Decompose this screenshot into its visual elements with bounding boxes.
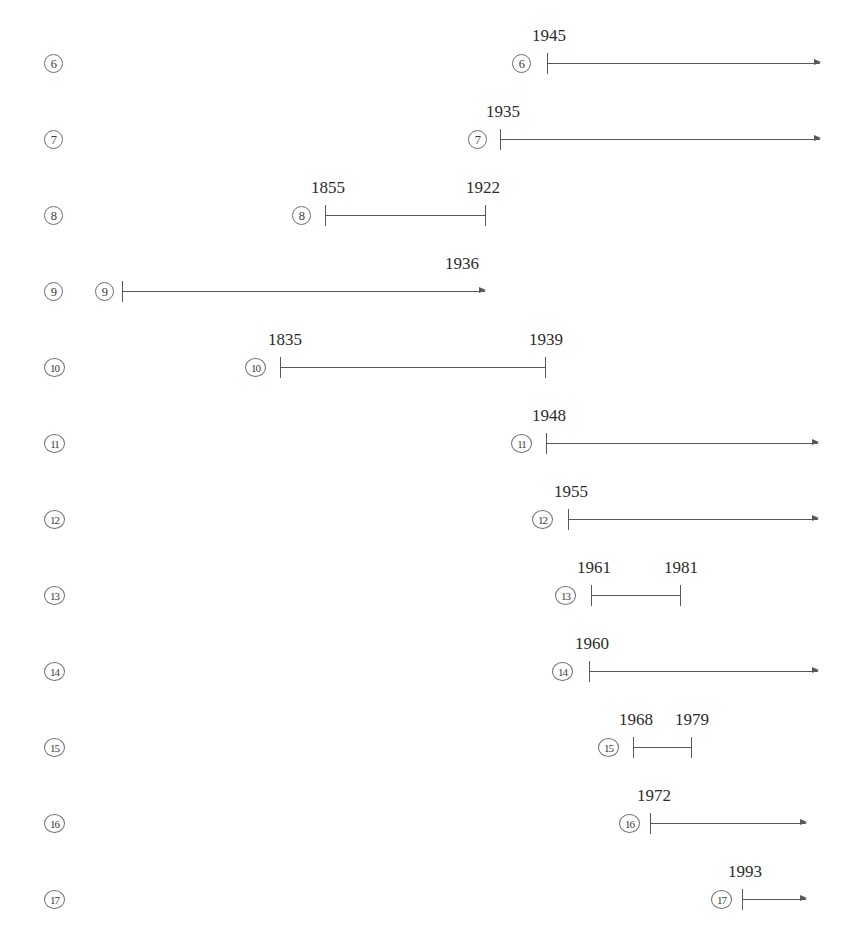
year-label: 1979 (675, 710, 709, 730)
row-index-circle-8: 8 (292, 206, 311, 225)
year-label: 1922 (466, 178, 500, 198)
span-arrowhead-9 (479, 287, 486, 293)
timeline-row: 11111948 (0, 406, 843, 482)
year-label: 1960 (575, 634, 609, 654)
left-index-circle-7: 7 (44, 130, 63, 149)
row-index-circle-10: 10 (245, 358, 266, 377)
span-arrowhead-17 (800, 895, 807, 901)
span-line-13 (591, 595, 680, 596)
span-line-16 (650, 823, 806, 824)
span-arrowhead-14 (812, 667, 819, 673)
row-index-circle-7: 7 (468, 130, 487, 149)
timeline-row: 771935 (0, 102, 843, 178)
row-index-circle-6: 6 (512, 54, 531, 73)
span-end-cap-15 (691, 737, 692, 758)
left-index-circle-17: 17 (44, 890, 65, 909)
timeline-row: 151519681979 (0, 710, 843, 786)
span-start-cap-13 (591, 585, 592, 606)
timeline-row: 991936 (0, 254, 843, 330)
span-start-cap-15 (633, 737, 634, 758)
row-index-circle-12: 12 (532, 510, 553, 529)
span-start-cap-17 (742, 889, 743, 910)
cropped-title-strip (0, 0, 843, 10)
left-index-circle-16: 16 (44, 814, 65, 833)
year-label: 1939 (529, 330, 563, 350)
span-line-9 (122, 291, 485, 292)
left-index-circle-13: 13 (44, 586, 65, 605)
span-line-6 (547, 63, 820, 64)
span-start-cap-6 (547, 53, 548, 74)
left-index-circle-14: 14 (44, 662, 65, 681)
year-label: 1955 (554, 482, 588, 502)
span-line-7 (500, 139, 820, 140)
timeline-row: 8818551922 (0, 178, 843, 254)
span-arrowhead-12 (812, 515, 819, 521)
year-label: 1948 (532, 406, 566, 426)
timeline-row: 17171993 (0, 862, 843, 938)
row-index-circle-13: 13 (555, 586, 576, 605)
span-start-cap-7 (500, 129, 501, 150)
timeline-row: 661945 (0, 26, 843, 102)
row-index-circle-9: 9 (95, 282, 114, 301)
span-line-15 (633, 747, 691, 748)
row-index-circle-17: 17 (711, 890, 732, 909)
year-label: 1961 (577, 558, 611, 578)
span-arrowhead-6 (814, 59, 821, 65)
left-index-circle-15: 15 (44, 738, 65, 757)
left-index-circle-10: 10 (44, 358, 65, 377)
span-line-12 (568, 519, 818, 520)
left-index-circle-8: 8 (44, 206, 63, 225)
year-label: 1968 (619, 710, 653, 730)
left-index-circle-11: 11 (44, 434, 65, 453)
span-end-cap-13 (680, 585, 681, 606)
year-label: 1835 (268, 330, 302, 350)
year-label: 1936 (445, 254, 479, 274)
year-label: 1972 (637, 786, 671, 806)
span-arrowhead-16 (800, 819, 807, 825)
span-start-cap-12 (568, 509, 569, 530)
left-index-circle-6: 6 (44, 54, 63, 73)
span-arrowhead-7 (814, 135, 821, 141)
row-index-circle-11: 11 (511, 434, 532, 453)
timeline-row: 101018351939 (0, 330, 843, 406)
span-end-cap-10 (545, 357, 546, 378)
span-line-17 (742, 899, 806, 900)
year-label: 1981 (664, 558, 698, 578)
timeline-row: 14141960 (0, 634, 843, 710)
span-start-cap-16 (650, 813, 651, 834)
year-label: 1935 (486, 102, 520, 122)
timeline-page: 6619457719358818551922991936101018351939… (0, 0, 843, 947)
row-index-circle-16: 16 (619, 814, 640, 833)
left-index-circle-12: 12 (44, 510, 65, 529)
span-start-cap-14 (589, 661, 590, 682)
span-arrowhead-11 (812, 439, 819, 445)
timeline-row: 12121955 (0, 482, 843, 558)
span-end-cap-8 (485, 205, 486, 226)
span-line-14 (589, 671, 818, 672)
span-line-10 (280, 367, 545, 368)
span-start-cap-8 (325, 205, 326, 226)
span-line-11 (546, 443, 818, 444)
row-index-circle-14: 14 (552, 662, 573, 681)
year-label: 1945 (532, 26, 566, 46)
left-index-circle-9: 9 (44, 282, 63, 301)
row-index-circle-15: 15 (598, 738, 619, 757)
span-start-cap-9 (122, 281, 123, 302)
span-line-8 (325, 215, 485, 216)
timeline-row: 16161972 (0, 786, 843, 862)
span-start-cap-10 (280, 357, 281, 378)
timeline-row: 131319611981 (0, 558, 843, 634)
year-label: 1855 (311, 178, 345, 198)
span-start-cap-11 (546, 433, 547, 454)
year-label: 1993 (728, 862, 762, 882)
